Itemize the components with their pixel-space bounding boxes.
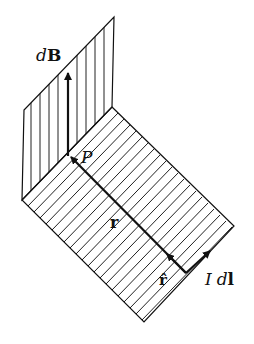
r-hat-unit-vector-arrow xyxy=(167,254,186,273)
dB-label: dB xyxy=(36,45,61,65)
biot-savart-diagram: dB P r r̂ Idl xyxy=(0,0,254,344)
point-P-label: P xyxy=(80,147,93,167)
r-hat-label: r̂ xyxy=(159,271,168,289)
r-vector-label: r xyxy=(110,213,119,232)
current-element-label: Idl xyxy=(204,269,235,289)
